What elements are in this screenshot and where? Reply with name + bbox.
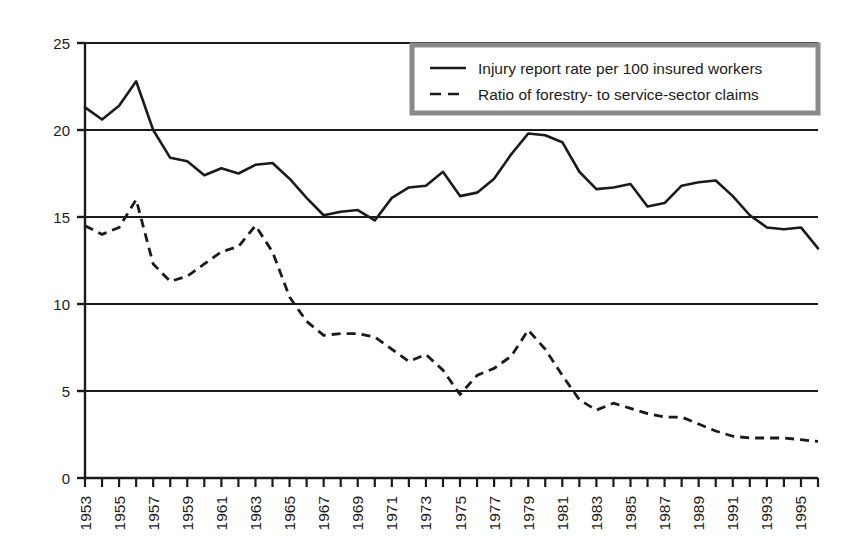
x-tick-label-1961: 1961	[213, 496, 230, 530]
x-tick-label-1965: 1965	[281, 496, 298, 530]
x-tick-label-1971: 1971	[383, 496, 400, 530]
x-tick-label-1991: 1991	[724, 496, 741, 530]
line-chart-svg: 0510152025 19531955195719591961196319651…	[0, 0, 848, 559]
y-tick-label-5: 5	[62, 383, 70, 400]
x-tick-label-1967: 1967	[315, 496, 332, 530]
x-tick-label-1973: 1973	[417, 496, 434, 530]
y-tick-label-25: 25	[53, 35, 70, 52]
y-tick-label-10: 10	[53, 296, 70, 313]
x-tick-label-1985: 1985	[622, 496, 639, 530]
x-tick-label-1955: 1955	[111, 496, 128, 530]
x-tick-label-1987: 1987	[656, 496, 673, 530]
y-tick-label-15: 15	[53, 209, 70, 226]
legend-label-forestry-service-ratio: Ratio of forestry- to service-sector cla…	[478, 86, 759, 103]
legend: Injury report rate per 100 insured worke…	[412, 45, 818, 113]
x-tick-label-1975: 1975	[452, 496, 469, 530]
x-tick-label-1979: 1979	[520, 496, 537, 530]
x-tick-label-1977: 1977	[486, 496, 503, 530]
x-tick-label-1981: 1981	[554, 496, 571, 530]
x-tick-label-1953: 1953	[77, 496, 94, 530]
x-tick-label-1989: 1989	[690, 496, 707, 530]
x-tick-label-1995: 1995	[792, 496, 809, 530]
x-tick-label-1993: 1993	[758, 496, 775, 530]
x-tick-label-1963: 1963	[247, 496, 264, 530]
y-tick-label-20: 20	[53, 122, 70, 139]
x-tick-label-1957: 1957	[145, 496, 162, 530]
x-tick-label-1959: 1959	[179, 496, 196, 530]
y-tick-label-0: 0	[62, 470, 70, 487]
legend-label-injury-report-rate: Injury report rate per 100 insured worke…	[478, 60, 763, 77]
x-tick-label-1983: 1983	[588, 496, 605, 530]
x-tick-label-1969: 1969	[349, 496, 366, 530]
chart-figure: 0510152025 19531955195719591961196319651…	[0, 0, 848, 559]
